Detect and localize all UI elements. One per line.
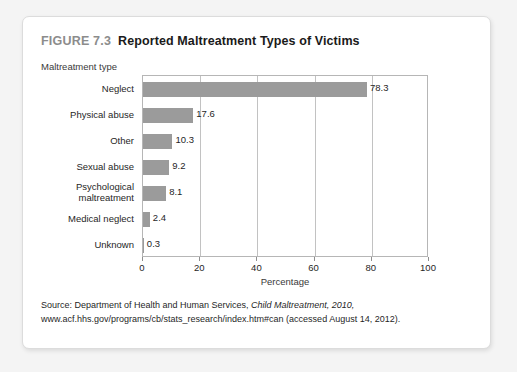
- figure-header: FIGURE 7.3Reported Maltreatment Types of…: [41, 31, 360, 49]
- bar: [143, 160, 169, 175]
- source-prefix: Source: Department of Health and Human S…: [41, 300, 251, 310]
- bar-value-label: 2.4: [153, 212, 166, 223]
- x-axis-tick-label: 100: [420, 262, 436, 273]
- x-axis-tick-label: 80: [366, 262, 377, 273]
- x-axis-tick-label: 20: [194, 262, 205, 273]
- bar: [143, 108, 193, 123]
- gridline: [200, 76, 201, 256]
- y-axis-title: Maltreatment type: [41, 61, 117, 72]
- y-axis-tick-label: Unknown: [39, 239, 134, 250]
- x-axis-title: Percentage: [142, 276, 428, 287]
- gridline: [372, 76, 373, 256]
- x-axis-tick-mark: [142, 257, 143, 261]
- y-axis-tick-label: Physical abuse: [39, 109, 134, 120]
- y-axis-tick-label: Neglect: [39, 83, 134, 94]
- x-axis-tick-label: 0: [139, 262, 144, 273]
- x-axis-tick-mark: [314, 257, 315, 261]
- x-axis-tick-mark: [371, 257, 372, 261]
- source-italic-title: Child Maltreatment, 2010,: [251, 300, 354, 310]
- bar: [143, 82, 367, 97]
- y-axis-category-labels: NeglectPhysical abuseOtherSexual abusePs…: [41, 75, 138, 257]
- bar-value-label: 9.2: [172, 160, 185, 171]
- bar: [143, 134, 172, 149]
- y-axis-tick-label: Sexual abuse: [39, 161, 134, 172]
- bar: [143, 212, 150, 227]
- y-axis-tick-label: Other: [39, 135, 134, 146]
- gridline: [257, 76, 258, 256]
- bar: [143, 238, 144, 253]
- gridline: [315, 76, 316, 256]
- y-axis-tick-label: Medical neglect: [39, 213, 134, 224]
- y-axis-tick-label: Psychological maltreatment: [39, 181, 134, 203]
- source-suffix: www.acf.hhs.gov/programs/cb/stats_resear…: [41, 314, 400, 324]
- x-axis-tick-mark: [256, 257, 257, 261]
- x-axis-tick-mark: [199, 257, 200, 261]
- bar-value-label: 0.3: [147, 238, 160, 249]
- bar: [143, 186, 166, 201]
- chart-plot-region: NeglectPhysical abuseOtherSexual abusePs…: [41, 75, 474, 290]
- x-axis-tick-label: 40: [251, 262, 262, 273]
- bar-value-label: 8.1: [169, 186, 182, 197]
- source-note: Source: Department of Health and Human S…: [41, 299, 471, 326]
- figure-card: FIGURE 7.3Reported Maltreatment Types of…: [22, 16, 491, 349]
- x-axis-tick-mark: [428, 257, 429, 261]
- figure-number: FIGURE 7.3: [41, 34, 111, 48]
- figure-title: Reported Maltreatment Types of Victims: [118, 34, 360, 48]
- x-axis-tick-label: 60: [308, 262, 319, 273]
- bar-value-label: 78.3: [370, 82, 389, 93]
- bar-value-label: 17.6: [196, 108, 215, 119]
- bar-value-label: 10.3: [175, 134, 194, 145]
